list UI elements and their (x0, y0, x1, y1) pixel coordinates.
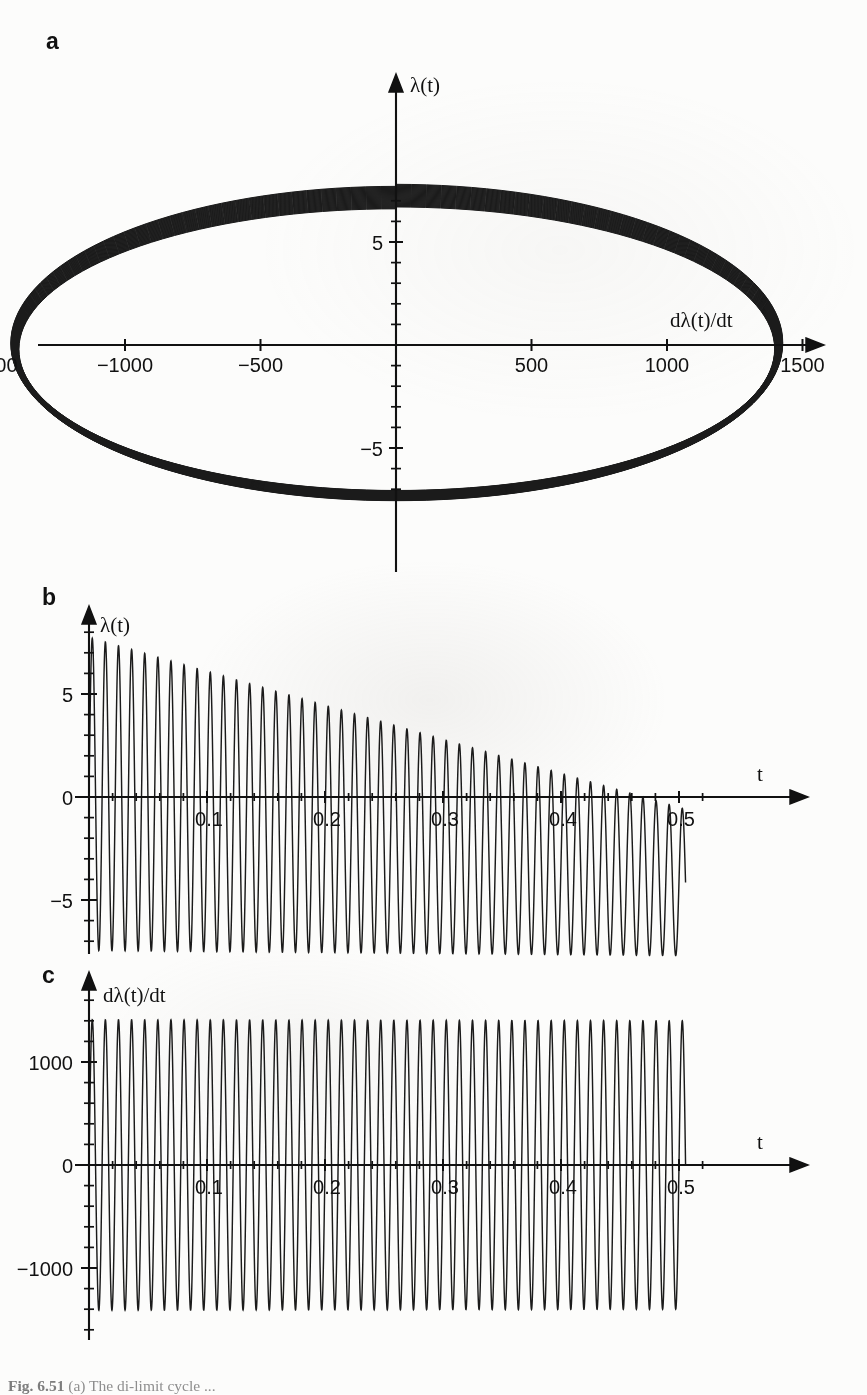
panel-a-letter: a (46, 28, 59, 55)
x-tick-label: −500 (238, 354, 283, 376)
x-axis-label: dλ(t)/dt (670, 308, 733, 332)
y-axis-arrow (82, 606, 96, 624)
x-axis-arrow (790, 790, 808, 804)
x-tick-label: 1500 (780, 354, 825, 376)
x-tick-label: 0.2 (313, 1176, 341, 1198)
panel-b-plot: 0.10.20.30.40.550−5λ(t)t (0, 578, 867, 958)
panel-a: a −1500−1000−50050010001500−55λ(t)dλ(t)/… (0, 0, 867, 580)
y-tick-label: 1000 (29, 1052, 74, 1074)
panel-c-plot: 0.10.20.30.40.510000−1000dλ(t)/dtt (0, 952, 867, 1342)
x-tick-label: 0.3 (431, 1176, 459, 1198)
y-axis-arrow (389, 74, 403, 92)
figure-caption: Fig. 6.51 (a) The di-limit cycle ... (8, 1376, 867, 1395)
x-axis-arrow (806, 338, 824, 352)
caption-body: (a) The di-limit cycle ... (68, 1377, 215, 1394)
x-tick-label: 0.2 (313, 808, 341, 830)
y-tick-label: 5 (372, 232, 383, 254)
y-axis-arrow (82, 972, 96, 990)
y-tick-label: 0 (62, 787, 73, 809)
panel-c: c 0.10.20.30.40.510000−1000dλ(t)/dtt (0, 952, 867, 1342)
y-tick-label: 5 (62, 684, 73, 706)
x-tick-label: 0.5 (667, 1176, 695, 1198)
x-axis-label: t (757, 762, 763, 786)
x-axis-label: t (757, 1130, 763, 1154)
y-axis-label: λ(t) (410, 73, 440, 97)
panel-c-letter: c (42, 962, 55, 989)
panel-b-letter: b (42, 584, 56, 611)
x-tick-label: 500 (515, 354, 548, 376)
y-tick-label: −1000 (17, 1258, 73, 1280)
x-tick-label: −1000 (97, 354, 153, 376)
x-tick-label: 0.1 (195, 808, 223, 830)
x-tick-label: 0.1 (195, 1176, 223, 1198)
y-axis-label: dλ(t)/dt (103, 983, 166, 1007)
x-tick-label: 0.5 (667, 808, 695, 830)
x-tick-label: 0.4 (549, 808, 577, 830)
x-tick-label: 0.4 (549, 1176, 577, 1198)
x-tick-label: 0.3 (431, 808, 459, 830)
y-tick-label: 0 (62, 1155, 73, 1177)
panel-b: b 0.10.20.30.40.550−5λ(t)t (0, 578, 867, 958)
x-tick-label: 1000 (645, 354, 690, 376)
y-tick-label: −5 (50, 890, 73, 912)
y-tick-label: −5 (360, 438, 383, 460)
y-axis-label: λ(t) (100, 613, 130, 637)
panel-a-plot: −1500−1000−50050010001500−55λ(t)dλ(t)/dt (0, 0, 867, 580)
x-axis-arrow (790, 1158, 808, 1172)
x-tick-label: −1500 (0, 354, 18, 376)
caption-prefix: Fig. 6.51 (8, 1377, 64, 1394)
